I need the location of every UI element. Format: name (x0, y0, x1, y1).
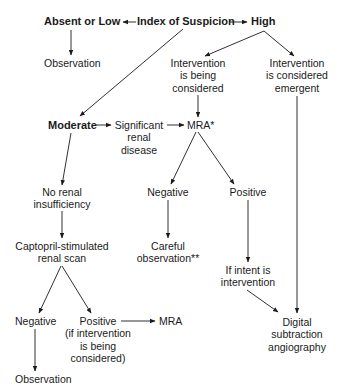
node-mra-star: MRA* (187, 119, 214, 131)
node-absent-or-low: Absent or Low (44, 15, 120, 27)
edge-mra-to-negative (171, 132, 196, 184)
node-label: If intent is (208, 264, 288, 276)
node-negative-mra: Negative (138, 186, 198, 198)
node-label: MRA* (187, 119, 214, 131)
node-careful-observation: Careful observation** (128, 240, 208, 265)
node-label: No renal (22, 186, 102, 198)
node-label: Positive (218, 186, 278, 198)
node-label: intervention (208, 276, 288, 288)
node-label: Digital (257, 316, 337, 328)
edge-captopril-to-negative (39, 266, 61, 313)
edge-high-to-emergent (264, 31, 294, 56)
node-label: is considered (257, 69, 337, 81)
node-label: MRA (159, 315, 182, 327)
node-digital-subtraction-angiography: Digital subtraction angiography (257, 316, 337, 353)
node-mra-bottom: MRA (159, 315, 182, 327)
node-label: is being (58, 340, 138, 352)
node-label: angiography (257, 341, 337, 353)
node-positive-scan: Positive (if intervention is being consi… (58, 315, 138, 364)
node-label: (if intervention (58, 327, 138, 339)
node-label: Intervention (158, 57, 238, 69)
node-label: considered) (58, 352, 138, 364)
node-captopril-renal-scan: Captopril-stimulated renal scan (7, 240, 117, 265)
node-label: subtraction (257, 328, 337, 340)
edge-ifintent-to-dsa (247, 290, 278, 312)
node-high: High (251, 15, 275, 27)
node-label: Intervention (257, 57, 337, 69)
node-label: renal scan (7, 252, 117, 264)
node-label: High (251, 15, 275, 27)
node-label: emergent (257, 82, 337, 94)
node-label: Negative (15, 315, 56, 327)
node-observation-bottom: Observation (15, 373, 72, 385)
node-label: is being (158, 69, 238, 81)
node-label: Captopril-stimulated (7, 240, 117, 252)
node-significant-renal-disease: Significant renal disease (109, 119, 169, 156)
edge-moderate-to-norenal (62, 133, 71, 185)
node-label: insufficiency (22, 198, 102, 210)
node-label: disease (109, 144, 169, 156)
node-label: Observation (15, 373, 72, 385)
node-label: Observation (44, 57, 101, 69)
node-label: Negative (138, 186, 198, 198)
edge-mra-to-positive (198, 132, 234, 184)
edge-high-to-considered (205, 31, 264, 56)
edge-captopril-to-positive (62, 266, 91, 313)
node-label: renal (109, 131, 169, 143)
node-moderate: Moderate (48, 119, 97, 131)
node-label: Careful (128, 240, 208, 252)
node-index-of-suspicion: Index of Suspicion (137, 15, 235, 27)
node-label: Moderate (48, 119, 97, 131)
node-label: Index of Suspicion (137, 15, 235, 27)
node-positive-mra: Positive (218, 186, 278, 198)
node-label: observation** (128, 252, 208, 264)
node-if-intent-intervention: If intent is intervention (208, 264, 288, 289)
node-label: Significant (109, 119, 169, 131)
node-observation-top: Observation (44, 57, 101, 69)
node-negative-scan: Negative (15, 315, 56, 327)
node-intervention-emergent: Intervention is considered emergent (257, 57, 337, 94)
node-intervention-considered: Intervention is being considered (158, 57, 238, 94)
node-label: Absent or Low (44, 15, 120, 27)
node-label: considered (158, 82, 238, 94)
node-label: Positive (58, 315, 138, 327)
node-no-renal-insufficiency: No renal insufficiency (22, 186, 102, 211)
